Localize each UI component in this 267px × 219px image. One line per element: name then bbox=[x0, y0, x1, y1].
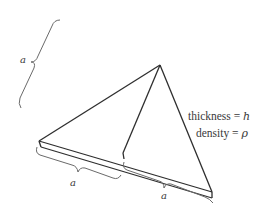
bottom-left-dimension-label: a bbox=[70, 177, 76, 188]
density-equals: = bbox=[232, 127, 239, 139]
bottom-right-dimension-brace bbox=[123, 162, 213, 203]
plate-middle-thickness bbox=[123, 153, 124, 159]
thickness-text: thickness bbox=[188, 110, 231, 122]
thickness-annotation: thickness = h bbox=[188, 110, 250, 123]
left-dimension-label: a bbox=[20, 54, 26, 65]
density-annotation: density = ρ bbox=[196, 127, 248, 140]
plate bbox=[39, 65, 212, 198]
bottom-right-dimension-label: a bbox=[161, 190, 167, 201]
triangular-plate-diagram: a a a thickness = h density = ρ bbox=[0, 0, 267, 219]
plate-edge-left-top bbox=[39, 65, 160, 141]
bottom-left-dimension-brace bbox=[36, 147, 121, 179]
plate-divider-edge bbox=[123, 65, 160, 153]
density-text: density bbox=[196, 127, 229, 139]
thickness-symbol: h bbox=[243, 110, 250, 123]
thickness-equals: = bbox=[234, 110, 241, 122]
density-symbol: ρ bbox=[241, 127, 247, 140]
